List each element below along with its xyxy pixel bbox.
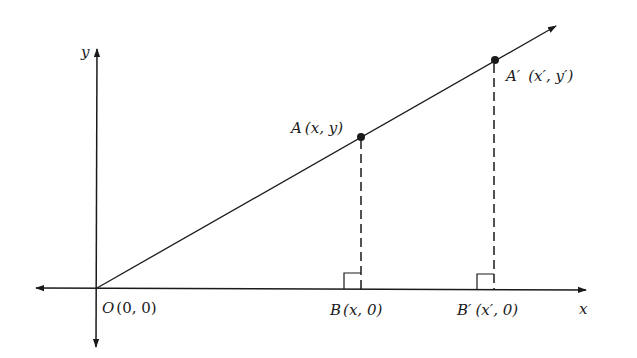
ray-through-origin [97, 26, 556, 288]
right-angle-marker-Bprime [477, 274, 494, 290]
point-Aprime-label: A′(x′, y′) [504, 67, 573, 85]
point-Aprime-coords: (x′, y′) [528, 67, 573, 85]
y-axis [96, 49, 97, 347]
point-B-name: B [329, 301, 341, 319]
coordinate-diagram: y x O(0, 0) A(x, y) A′(x′, y′) B(x, 0) B… [0, 0, 637, 358]
origin-coords: (0, 0) [116, 299, 156, 317]
point-B-label: B(x, 0) [329, 301, 382, 319]
point-Aprime-dot [491, 56, 499, 64]
point-Bprime-name: B′ [456, 301, 472, 319]
origin-name: O [102, 299, 114, 317]
point-Bprime-coords: (x′, 0) [475, 301, 518, 319]
point-A-label: A(x, y) [289, 119, 343, 137]
point-B-coords: (x, 0) [343, 301, 382, 319]
point-A-dot [357, 133, 365, 141]
right-angle-marker-B [344, 273, 361, 289]
point-Bprime-label: B′(x′, 0) [456, 301, 518, 319]
x-axis-label: x [579, 300, 588, 318]
point-Aprime-name: A′ [504, 67, 521, 85]
x-axis [36, 288, 586, 290]
y-axis-label: y [80, 43, 90, 61]
origin-label: O(0, 0) [102, 299, 157, 317]
point-A-coords: (x, y) [305, 119, 343, 137]
point-A-name: A [289, 119, 302, 137]
